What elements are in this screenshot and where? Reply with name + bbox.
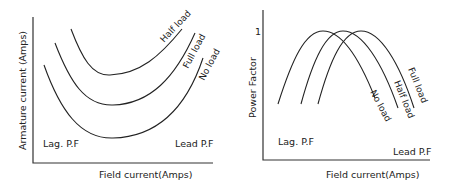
x-axis-label-right: Field current(Amps): [326, 169, 419, 180]
curve-no-load: [44, 58, 203, 138]
v-curves-figure: Half load Full load No load Lag. P.F Lea…: [0, 0, 450, 192]
label-no-load-pf: No load: [368, 88, 393, 123]
label-half-load: Half load: [158, 8, 193, 44]
x-axis-label: Field current(Amps): [99, 169, 192, 180]
curve-half-load-pf: [301, 31, 398, 108]
lead-pf-label-right: Lead P.F: [393, 146, 432, 157]
lag-pf-label-right: Lag. P.F: [278, 136, 314, 147]
lag-pf-label: Lag. P.F: [43, 138, 79, 149]
curve-full-load: [55, 33, 195, 105]
y-axis-label-right: Power Factor: [247, 57, 258, 118]
lead-pf-label: Lead P.F: [175, 138, 214, 149]
y-tick-1: 1: [255, 26, 261, 37]
armature-current-chart: Half load Full load No load Lag. P.F Lea…: [17, 8, 222, 180]
y-axis-label: Armature current (Amps): [17, 31, 28, 150]
power-factor-chart: 1 No load Half load Full load Lag. P.F L…: [247, 10, 432, 180]
